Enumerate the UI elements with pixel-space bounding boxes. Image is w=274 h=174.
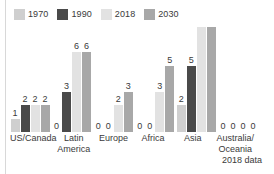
legend-swatch-2030 [144,9,155,20]
legend-item-1970[interactable]: 1970 [14,9,48,20]
bar[interactable] [11,119,20,132]
bar-value-label: 0 [106,121,111,131]
bar-slot-Europe-1990: 0 [104,26,113,132]
bar-value-label: 0 [96,121,101,131]
category-label-Europe: Europe [94,133,134,154]
bar[interactable] [187,66,196,132]
bar-value-label: 0 [240,121,245,131]
bar-value-label: 2 [32,94,37,104]
bar-slot-Latin-America-2030: 6 [82,26,91,132]
bar-value-label: 3 [157,81,162,91]
bar-group-Africa: 0035 [135,26,175,132]
bar[interactable] [62,92,71,132]
legend-label-2018: 2018 [115,9,135,20]
bar-value-label: 0 [54,121,59,131]
bar-value-label: 0 [137,121,142,131]
plot-area: 1222036600230035250000 [10,26,258,132]
bar-value-label: 1 [12,108,17,118]
bar-slot-Asia-2018 [197,26,206,132]
bar[interactable] [197,27,206,132]
category-label-Australia-Oceania: Australia/ Oceania [212,133,258,154]
bar[interactable] [207,27,216,132]
bar-slot-Australia-Oceania-2030: 0 [248,26,257,132]
bar-slot-Latin-America-2018: 6 [72,26,81,132]
category-label-Africa: Africa [133,133,173,154]
bar-slot-Europe-2030: 3 [124,26,133,132]
bar-groups: 1222036600230035250000 [10,26,258,132]
category-label-Latin-America: Latin America [54,133,94,154]
bar-value-label: 3 [126,81,131,91]
legend-item-1990[interactable]: 1990 [57,9,91,20]
bar-value-label: 5 [189,55,194,65]
bar-slot-US-Canada-2018: 2 [31,26,40,132]
bar-slot-Australia-Oceania-1970: 0 [218,26,227,132]
legend-item-2030[interactable]: 2030 [144,9,178,20]
bar-slot-Latin-America-1970: 0 [52,26,61,132]
category-label-Asia: Asia [173,133,213,154]
bar-value-label: 6 [84,41,89,51]
bar-value-label: 5 [167,55,172,65]
bar-group-Asia: 25 [176,26,216,132]
bar[interactable] [114,105,123,132]
bar-slot-Asia-2030 [207,26,216,132]
bar-slot-Africa-2030: 5 [165,26,174,132]
bar-value-label: 2 [42,94,47,104]
bar-slot-Africa-2018: 3 [155,26,164,132]
bar[interactable] [72,52,81,132]
bar[interactable] [124,92,133,132]
left-border-rule [5,0,6,174]
bar-slot-Latin-America-1990: 3 [62,26,71,132]
bar[interactable] [41,105,50,132]
bar-value-label: 0 [220,121,225,131]
legend-label-1990: 1990 [71,9,91,20]
bar[interactable] [31,105,40,132]
bar-slot-Europe-1970: 0 [94,26,103,132]
bar-value-label: 0 [147,121,152,131]
bar-slot-US-Canada-2030: 2 [41,26,50,132]
bar-slot-Asia-1990: 5 [187,26,196,132]
bar[interactable] [82,52,91,132]
bar-slot-Australia-Oceania-2018: 0 [238,26,247,132]
category-label-US-Canada: US/Canada [10,133,54,154]
bar-value-label: 2 [22,94,27,104]
bar-slot-Australia-Oceania-1990: 0 [228,26,237,132]
bar-slot-US-Canada-1970: 1 [11,26,20,132]
legend-label-1970: 1970 [28,9,48,20]
chart-legend: 1970199020182030 [14,9,179,20]
bar-slot-US-Canada-1990: 2 [21,26,30,132]
bar-group-Europe: 0023 [93,26,133,132]
category-axis-labels: US/CanadaLatin AmericaEuropeAfricaAsiaAu… [10,133,258,154]
bar-value-label: 0 [250,121,255,131]
bar[interactable] [21,105,30,132]
bar-slot-Asia-1970: 2 [177,26,186,132]
bar-value-label: 2 [179,94,184,104]
bar-slot-Europe-2018: 2 [114,26,123,132]
bar-slot-Africa-1970: 0 [135,26,144,132]
bar-group-Australia-Oceania: 0000 [218,26,258,132]
bar-value-label: 0 [230,121,235,131]
bar-slot-Africa-1990: 0 [145,26,154,132]
bar-value-label: 2 [116,94,121,104]
legend-swatch-2018 [101,9,112,20]
legend-swatch-1990 [57,9,68,20]
bar-group-US-Canada: 1222 [10,26,50,132]
chart-figure: 1970199020182030 1222036600230035250000 … [0,0,274,174]
bar[interactable] [165,66,174,132]
bar-value-label: 3 [64,81,69,91]
bar[interactable] [177,105,186,132]
legend-swatch-1970 [14,9,25,20]
bar[interactable] [155,92,164,132]
legend-label-2030: 2030 [158,9,178,20]
chart-footnote: 2018 data [222,155,262,166]
bar-group-Latin-America: 0366 [52,26,92,132]
bar-value-label: 6 [74,41,79,51]
legend-item-2018[interactable]: 2018 [101,9,135,20]
